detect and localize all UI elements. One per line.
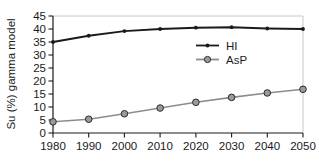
data-point [228, 94, 235, 101]
x-tick-label-1990: 1990 [76, 140, 102, 152]
y-axis-title: Su (%) gamma model [5, 18, 17, 129]
y-tick-label-15: 15 [33, 88, 46, 100]
data-point [85, 116, 92, 123]
legend-marker-hi [206, 44, 210, 48]
legend-label-asp: AsP [226, 54, 247, 66]
data-point [123, 29, 127, 33]
y-tick-label-20: 20 [33, 75, 46, 87]
legend-label-hi: HI [226, 40, 238, 52]
y-axis-ticks [49, 16, 54, 133]
data-point [264, 90, 271, 97]
data-point [194, 26, 198, 30]
x-tick-label-2030: 2030 [219, 140, 245, 152]
x-tick-label-2050: 2050 [290, 140, 316, 152]
x-tick-label-2010: 2010 [147, 140, 173, 152]
series-asp [50, 86, 307, 125]
legend-marker-asp [204, 56, 210, 62]
chart-figure: 0 5 10 15 20 25 30 35 40 45 Su (%) gamma… [0, 0, 319, 164]
y-tick-label-30: 30 [33, 49, 46, 61]
series-hi [51, 25, 305, 44]
y-tick-label-25: 25 [33, 62, 46, 74]
data-point [158, 27, 162, 31]
data-point [300, 86, 307, 93]
x-axis-ticks [53, 133, 303, 138]
x-tick-label-2020: 2020 [183, 140, 209, 152]
data-point [87, 34, 91, 38]
chart-legend: HI AsP [196, 40, 247, 66]
data-point [121, 110, 128, 117]
y-tick-label-10: 10 [33, 101, 46, 113]
y-tick-label-40: 40 [33, 23, 46, 35]
data-point [265, 27, 269, 31]
series-line-hi [53, 27, 303, 42]
data-point [301, 27, 305, 31]
data-point [51, 40, 55, 44]
y-tick-label-0: 0 [40, 127, 46, 139]
x-tick-label-2040: 2040 [255, 140, 281, 152]
y-tick-label-45: 45 [33, 10, 46, 22]
x-tick-label-2000: 2000 [112, 140, 138, 152]
data-point [230, 25, 234, 29]
y-tick-label-5: 5 [40, 114, 46, 126]
data-point [50, 119, 57, 126]
data-series-layer [50, 25, 307, 125]
y-tick-label-35: 35 [33, 36, 46, 48]
x-tick-label-1980: 1980 [40, 140, 66, 152]
data-point [193, 99, 200, 106]
data-point [157, 105, 164, 112]
line-chart: 0 5 10 15 20 25 30 35 40 45 Su (%) gamma… [0, 0, 319, 164]
